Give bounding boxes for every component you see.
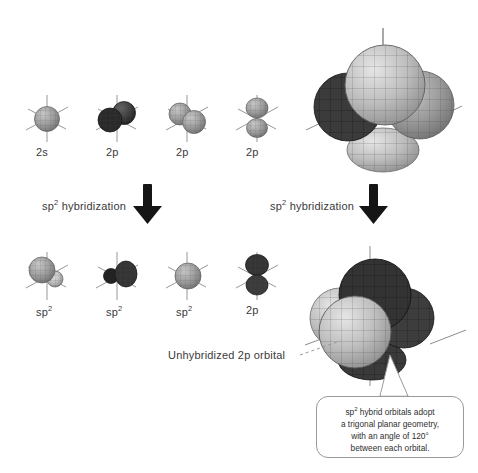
label-sp2-b: sp2 bbox=[106, 304, 122, 318]
axis-cross-group-bottom bbox=[26, 252, 278, 300]
orbital-2p-x bbox=[98, 102, 136, 133]
callout-box: sp2 hybrid orbitals adopt a trigonal pla… bbox=[316, 396, 464, 458]
arrow-label-left: sp2 hybridization bbox=[42, 198, 126, 212]
label-2p-x: 2p bbox=[106, 146, 119, 158]
orbital-sp2-c bbox=[175, 263, 201, 289]
orbital-2p-y bbox=[169, 103, 206, 134]
orbital-2s bbox=[35, 107, 60, 132]
orbital-2p-z bbox=[246, 98, 268, 138]
callout-line-3: with an angle of 120° bbox=[322, 430, 458, 442]
label-2p-y: 2p bbox=[176, 146, 189, 158]
orbital-sp2-b bbox=[104, 261, 138, 287]
label-2p-z: 2p bbox=[246, 146, 259, 158]
callout-line-2: a trigonal planar geometry, bbox=[322, 418, 458, 430]
label-sp2-c: sp2 bbox=[176, 304, 192, 318]
orbital-sp2-a bbox=[29, 257, 63, 287]
callout-line-4: between each orbital. bbox=[322, 442, 458, 454]
annotation-unhybridized: Unhybridized 2p orbital bbox=[168, 349, 285, 361]
axis-cross-group-top bbox=[26, 95, 278, 142]
arrow-left bbox=[133, 184, 162, 224]
composite-sp2-hybrid-orbitals bbox=[305, 246, 466, 386]
composite-unhybridized-orbitals bbox=[306, 28, 462, 172]
orbital-2p-bottom bbox=[246, 255, 269, 296]
label-2s: 2s bbox=[36, 146, 48, 158]
arrow-label-right: sp2 hybridization bbox=[270, 198, 354, 212]
arrow-right bbox=[359, 184, 388, 224]
label-sp2-a: sp2 bbox=[36, 304, 52, 318]
diagram-canvas: 2s 2p 2p 2p sp2 sp2 sp2 2p sp2 hybridiza… bbox=[0, 0, 478, 473]
callout-line-1: sp2 hybrid orbitals adopt bbox=[322, 403, 458, 418]
label-2p-bottom: 2p bbox=[246, 304, 259, 316]
